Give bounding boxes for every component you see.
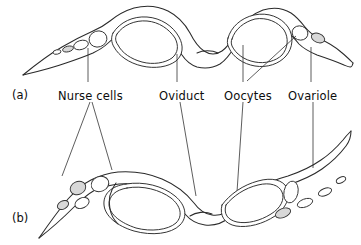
leader-nurse-cells-to-b-right — [92, 102, 112, 170]
panel-tag-b: (b) — [12, 211, 28, 225]
leader-nurse-cells-to-b-left — [62, 102, 90, 176]
leader-oviduct-to-b — [180, 102, 196, 196]
ovary-figure: (a) (b) Nurse cells Oviduct Oocytes Ovar… — [0, 0, 361, 245]
ovary-b-inner-wall — [39, 131, 351, 238]
follicle-cell-b-3 — [296, 197, 314, 210]
nurse-cell-b-3 — [73, 195, 91, 211]
nurse-cell-a-4 — [53, 49, 62, 55]
label-oocytes: Oocytes — [224, 89, 272, 103]
leader-oocytes-to-b — [237, 102, 243, 192]
panel-tag-a: (a) — [12, 88, 28, 102]
panel-a-drawing — [23, 6, 353, 75]
nurse-cell-a-5 — [290, 24, 310, 43]
ovary-a-outer-wall — [23, 6, 353, 75]
label-nurse-cells: Nurse cells — [58, 89, 123, 103]
ovary-diagram-svg — [0, 0, 361, 245]
nurse-cell-a-6 — [310, 31, 326, 45]
nurse-cell-b-4 — [56, 199, 70, 212]
follicle-cell-b-5 — [335, 175, 346, 184]
panel-b-drawing — [39, 131, 351, 238]
label-ovariole: Ovariole — [288, 89, 337, 103]
label-oviduct: Oviduct — [159, 89, 205, 103]
nurse-cell-a-2 — [73, 39, 90, 52]
follicle-cell-b-4 — [317, 186, 333, 198]
nurse-cell-b-2 — [68, 179, 88, 197]
